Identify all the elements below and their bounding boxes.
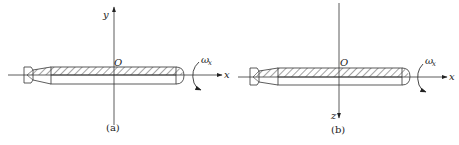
z-axis-label-b: z: [330, 110, 337, 121]
x-axis-label-a: x: [224, 69, 230, 80]
omega-label-a: ω x: [201, 54, 212, 67]
caption-a: (a): [106, 122, 120, 133]
rod-b: [250, 68, 410, 85]
origin-label-b: O: [340, 57, 348, 68]
origin-label-a: O: [114, 57, 122, 68]
svg-text:x: x: [432, 60, 436, 68]
y-axis-label-a: y: [102, 9, 109, 20]
panel-a: y O x ω x (a): [8, 7, 230, 133]
omega-label-b: ω x: [425, 55, 436, 68]
rotation-arrow-icon-b: [418, 64, 426, 92]
rod-rotation-diagram: y O x ω x (a) O x z: [0, 0, 459, 145]
rotation-arrow-icon-a: [193, 62, 201, 90]
svg-text:x: x: [208, 59, 212, 67]
panel-b: O x z ω x (b): [238, 3, 455, 135]
rod-a: [24, 67, 184, 84]
x-axis-label-b: x: [449, 71, 455, 82]
caption-b: (b): [331, 124, 345, 135]
